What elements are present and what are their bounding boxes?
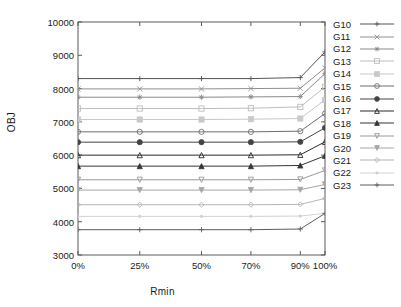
legend-label: G22: [333, 167, 358, 178]
legend-label: G19: [333, 130, 358, 141]
legend-item-g23[interactable]: G23: [333, 179, 396, 191]
legend-label: G13: [333, 56, 358, 67]
legend-label: G11: [333, 31, 358, 42]
legend-key-dtri-open-icon: [358, 130, 396, 142]
data-series: [75, 196, 327, 208]
legend-label: G21: [333, 155, 358, 166]
legend-label: G14: [333, 68, 358, 79]
legend-key-cross-icon: [358, 31, 396, 43]
legend-key-star-icon: [358, 43, 396, 55]
legend-item-g11[interactable]: G11: [333, 30, 396, 42]
legend-label: G16: [333, 93, 358, 104]
legend-item-g21[interactable]: G21: [333, 154, 396, 166]
legend-item-g19[interactable]: G19: [333, 130, 396, 142]
legend-item-g22[interactable]: G22: [333, 167, 396, 179]
legend-item-g17[interactable]: G17: [333, 105, 396, 117]
data-series: [75, 97, 327, 122]
legend-key-plus-icon: [358, 179, 396, 191]
legend-key-diamond-icon: [358, 154, 396, 166]
legend-key-circle-fill-icon: [358, 93, 396, 105]
legend-item-g16[interactable]: G16: [333, 92, 396, 104]
legend-item-g15[interactable]: G15: [333, 80, 396, 92]
series-group: [75, 49, 327, 232]
legend-key-dtri-fill-icon: [358, 142, 396, 154]
legend-item-g10[interactable]: G10: [333, 18, 396, 30]
legend-key-tri-open-icon: [358, 105, 396, 117]
data-series: [75, 111, 327, 135]
data-series: [75, 211, 327, 233]
legend-label: G15: [333, 81, 358, 92]
data-series: [75, 168, 327, 183]
legend-item-g20[interactable]: G20: [333, 142, 396, 154]
legend-key-tri-fill-icon: [358, 117, 396, 129]
legend-label: G23: [333, 180, 358, 191]
legend-label: G17: [333, 105, 358, 116]
data-series: [75, 71, 327, 100]
legend-item-g18[interactable]: G18: [333, 117, 396, 129]
legend-label: G20: [333, 143, 358, 154]
data-series: [77, 212, 327, 218]
legend: G10G11G12G13G14G15G16G17G18G19G20G21G22G…: [333, 18, 396, 191]
data-series: [75, 182, 327, 193]
legend-key-plus-icon: [358, 18, 396, 30]
legend-key-dot-icon: [358, 167, 396, 179]
plot-frame: [78, 22, 325, 255]
data-series: [75, 125, 327, 145]
legend-key-square-fill-icon: [358, 68, 396, 80]
legend-item-g14[interactable]: G14: [333, 68, 396, 80]
legend-item-g13[interactable]: G13: [333, 55, 396, 67]
legend-key-square-open-icon: [358, 55, 396, 67]
legend-item-g12[interactable]: G12: [333, 43, 396, 55]
legend-label: G18: [333, 118, 358, 129]
legend-key-circle-open-icon: [358, 80, 396, 92]
chart-container: OBJ Rmin 3000400050006000700080009000100…: [0, 0, 401, 307]
legend-label: G12: [333, 43, 358, 54]
legend-label: G10: [333, 19, 358, 30]
data-series: [75, 49, 327, 81]
